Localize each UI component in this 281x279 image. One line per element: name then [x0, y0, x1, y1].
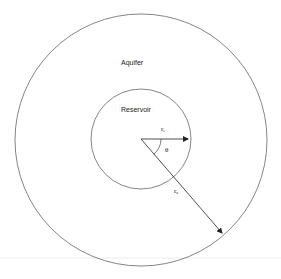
reservoir-label: Reservoir [121, 106, 151, 113]
aquifer-label: Aquifer [121, 59, 143, 66]
radial-aquifer-diagram [0, 0, 281, 279]
aquifer-boundary-circle [15, 14, 267, 266]
angle-arc [154, 139, 161, 154]
aquifer-radius-arrow [141, 139, 222, 233]
inner-radius-symbol: re [161, 125, 165, 133]
angle-theta-symbol: θ [165, 146, 168, 154]
outer-radius-symbol: ra [174, 187, 178, 195]
